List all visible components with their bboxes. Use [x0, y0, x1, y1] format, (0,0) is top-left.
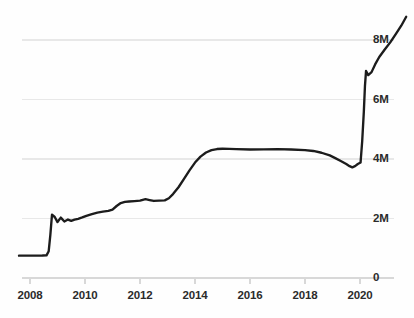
y-axis-label: 0	[373, 271, 379, 283]
x-axis-label: 2012	[128, 289, 153, 301]
x-axis-label: 2018	[293, 289, 318, 301]
chart-plot-area	[0, 0, 414, 318]
gridlines	[22, 40, 394, 219]
y-axis-label: 2M	[373, 212, 389, 224]
x-axis-label: 2020	[348, 289, 373, 301]
data-series-line	[19, 17, 406, 256]
y-axis-label: 8M	[373, 33, 389, 45]
x-axis-label: 2016	[238, 289, 263, 301]
line-chart: 8M6M4M2M0 2008201020122014201620182020	[0, 0, 414, 318]
y-axis-label: 6M	[373, 93, 389, 105]
y-axis-label: 4M	[373, 152, 389, 164]
x-axis-label: 2010	[73, 289, 98, 301]
x-axis-ticks	[30, 278, 360, 284]
x-axis-label: 2008	[18, 289, 43, 301]
x-axis-label: 2014	[183, 289, 208, 301]
